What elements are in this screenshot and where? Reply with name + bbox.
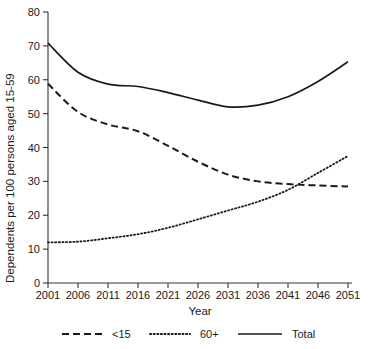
- x-tick-label: 2021: [156, 289, 180, 301]
- x-tick-label: 2026: [186, 289, 210, 301]
- legend-label-60: 60+: [200, 328, 219, 340]
- y-tick-label: 70: [28, 40, 40, 52]
- x-tick-label: 2041: [276, 289, 300, 301]
- y-axis-title: Dependents per 100 persons aged 15-59: [4, 73, 16, 283]
- y-tick-label: 30: [28, 175, 40, 187]
- x-tick-label: 2006: [66, 289, 90, 301]
- legend-label-15: <15: [112, 328, 131, 340]
- x-tick-label: 2011: [96, 289, 120, 301]
- x-axis-ticks: 2001200620112016202120262031203620412046…: [36, 283, 360, 301]
- x-axis-title: Year: [188, 305, 211, 317]
- y-tick-label: 20: [28, 209, 40, 221]
- y-tick-label: 80: [28, 6, 40, 18]
- series-group: [48, 43, 348, 242]
- x-tick-label: 2051: [336, 289, 360, 301]
- series-line-60: [48, 156, 348, 242]
- x-tick-label: 2031: [216, 289, 240, 301]
- line-chart: Dependents per 100 persons aged 15-59 01…: [0, 0, 373, 349]
- legend-label-total: Total: [292, 328, 315, 340]
- y-tick-label: 10: [28, 243, 40, 255]
- y-axis-ticks: 01020304050607080: [28, 6, 48, 289]
- y-tick-label: 50: [28, 108, 40, 120]
- series-line-total: [48, 43, 348, 107]
- y-tick-label: 40: [28, 142, 40, 154]
- x-tick-label: 2036: [246, 289, 270, 301]
- x-tick-label: 2001: [36, 289, 60, 301]
- y-tick-label: 0: [34, 277, 40, 289]
- x-tick-label: 2016: [126, 289, 150, 301]
- x-tick-label: 2046: [306, 289, 330, 301]
- chart-legend: <1560+Total: [62, 328, 315, 340]
- y-tick-label: 60: [28, 74, 40, 86]
- chart-container: Dependents per 100 persons aged 15-59 01…: [0, 0, 373, 349]
